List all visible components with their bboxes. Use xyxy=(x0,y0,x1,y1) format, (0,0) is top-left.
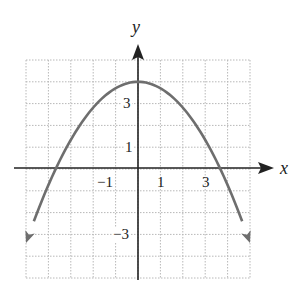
left-arrowhead-icon xyxy=(25,230,34,243)
right-arrowhead-icon xyxy=(241,230,250,243)
chart-canvas xyxy=(0,0,292,281)
x-tick-label-neg1: −1 xyxy=(97,175,113,190)
x-axis-label: x xyxy=(280,159,288,177)
y-axis-label: y xyxy=(132,18,140,36)
x-tick-label-1: 1 xyxy=(157,175,165,190)
y-tick-label-neg3: −3 xyxy=(112,227,130,242)
x-tick-label-3: 3 xyxy=(202,175,210,190)
y-tick-label-3: 3 xyxy=(122,96,132,111)
y-axis xyxy=(132,44,144,280)
y-tick-label-1: 1 xyxy=(124,140,134,155)
